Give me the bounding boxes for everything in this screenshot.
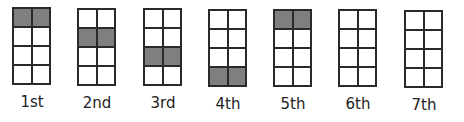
empty-cell	[13, 46, 32, 65]
shaded-cell	[144, 47, 163, 66]
empty-cell	[144, 9, 163, 28]
grid-2x4	[338, 9, 377, 87]
empty-cell	[228, 29, 247, 48]
shaded-cell	[274, 10, 293, 29]
empty-cell	[339, 10, 358, 29]
empty-cell	[228, 10, 247, 29]
pattern-step-3: 3rd	[143, 8, 183, 86]
empty-cell	[293, 29, 312, 48]
step-label: 7th	[394, 96, 454, 114]
step-label: 4th	[198, 95, 258, 113]
grid-2x4	[404, 10, 443, 88]
empty-cell	[358, 29, 377, 48]
step-label: 6th	[328, 95, 388, 113]
pattern-step-6: 6th	[338, 9, 378, 87]
empty-cell	[144, 28, 163, 47]
empty-cell	[97, 47, 116, 66]
empty-cell	[274, 48, 293, 67]
empty-cell	[274, 67, 293, 86]
empty-cell	[163, 66, 182, 85]
shaded-cell	[209, 67, 228, 86]
empty-cell	[32, 46, 51, 65]
pattern-step-4: 4th	[208, 9, 248, 87]
empty-cell	[405, 30, 424, 49]
empty-cell	[358, 48, 377, 67]
shaded-cell	[32, 8, 51, 27]
empty-cell	[144, 66, 163, 85]
shaded-cell	[78, 28, 97, 47]
empty-cell	[424, 11, 443, 30]
empty-cell	[339, 67, 358, 86]
empty-cell	[424, 68, 443, 87]
empty-cell	[293, 48, 312, 67]
empty-cell	[163, 28, 182, 47]
empty-cell	[339, 29, 358, 48]
empty-cell	[13, 65, 32, 84]
step-label: 5th	[263, 95, 323, 113]
empty-cell	[405, 11, 424, 30]
empty-cell	[13, 27, 32, 46]
empty-cell	[358, 10, 377, 29]
empty-cell	[293, 67, 312, 86]
step-label: 3rd	[133, 94, 193, 112]
grid-2x4	[208, 9, 247, 87]
empty-cell	[209, 48, 228, 67]
empty-cell	[274, 29, 293, 48]
empty-cell	[424, 30, 443, 49]
pattern-step-1: 1st	[12, 7, 52, 85]
empty-cell	[97, 9, 116, 28]
shaded-cell	[228, 67, 247, 86]
shaded-cell	[13, 8, 32, 27]
empty-cell	[424, 49, 443, 68]
empty-cell	[32, 65, 51, 84]
pattern-step-7: 7th	[404, 10, 444, 88]
empty-cell	[78, 9, 97, 28]
grid-2x4	[77, 8, 116, 86]
step-label: 2nd	[67, 94, 127, 112]
empty-cell	[405, 68, 424, 87]
empty-cell	[405, 49, 424, 68]
grid-2x4	[143, 8, 182, 86]
pattern-step-2: 2nd	[77, 8, 117, 86]
shaded-cell	[97, 28, 116, 47]
pattern-step-5: 5th	[273, 9, 313, 87]
empty-cell	[32, 27, 51, 46]
step-label: 1st	[2, 93, 62, 111]
empty-cell	[228, 48, 247, 67]
shaded-cell	[163, 47, 182, 66]
empty-cell	[163, 9, 182, 28]
empty-cell	[339, 48, 358, 67]
shaded-cell	[293, 10, 312, 29]
empty-cell	[358, 67, 377, 86]
grid-2x4	[273, 9, 312, 87]
empty-cell	[97, 66, 116, 85]
grid-2x4	[12, 7, 51, 85]
empty-cell	[209, 29, 228, 48]
empty-cell	[209, 10, 228, 29]
empty-cell	[78, 47, 97, 66]
empty-cell	[78, 66, 97, 85]
